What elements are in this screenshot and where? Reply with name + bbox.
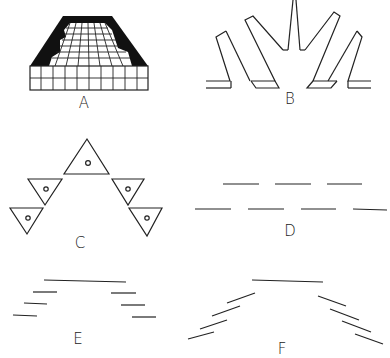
panel-label-d: D: [284, 224, 296, 239]
panel-c-drawing: [10, 139, 162, 236]
panel-d-drawing: [195, 184, 387, 210]
panel-label-e: E: [73, 332, 82, 347]
panel-label-b: B: [285, 92, 295, 107]
diagram-svg: [0, 0, 390, 358]
panel-b-drawing: [206, 0, 371, 88]
panel-f-drawing: [188, 280, 383, 344]
figure-canvas: A B C D E F: [0, 0, 390, 358]
panel-e-drawing: [13, 280, 156, 317]
panel-a-drawing: [30, 16, 148, 90]
panel-label-c: C: [75, 236, 85, 251]
panel-label-a: A: [79, 96, 89, 111]
panel-label-f: F: [278, 342, 287, 357]
